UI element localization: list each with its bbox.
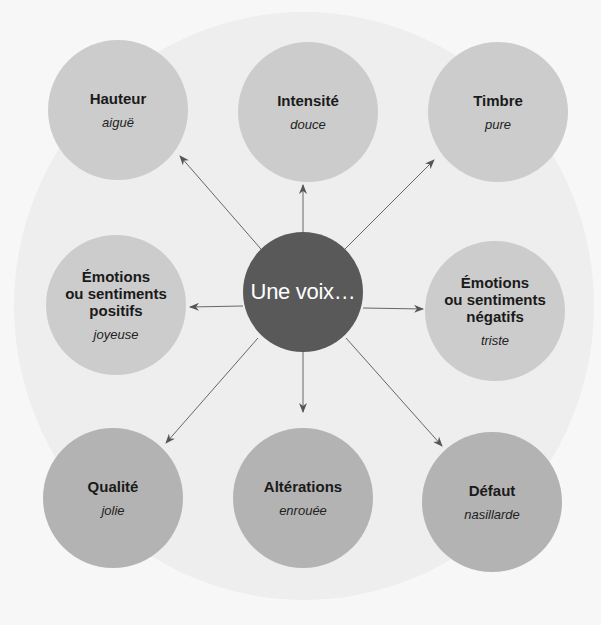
node-title: Timbre (473, 92, 523, 109)
center-label: Une voix… (251, 279, 356, 305)
node-hauteur: Hauteur aiguë (48, 40, 188, 180)
node-example: triste (481, 333, 509, 348)
node-title: Émotions ou sentiments négatifs (444, 274, 546, 325)
node-title: Intensité (277, 92, 339, 109)
node-title: Altérations (264, 478, 342, 495)
diagram-canvas: Une voix… Hauteur aiguë Intensité douce … (0, 0, 601, 625)
node-emotions-positifs: Émotions ou sentiments positifs joyeuse (46, 235, 186, 375)
node-example: joyeuse (94, 327, 139, 342)
arrow-emotions-positifs (190, 306, 243, 307)
node-qualite: Qualité jolie (43, 428, 183, 568)
node-example: pure (485, 117, 511, 132)
node-timbre: Timbre pure (428, 42, 568, 182)
node-title: Défaut (469, 482, 516, 499)
node-alterations: Altérations enrouée (233, 428, 373, 568)
node-example: aiguë (102, 115, 134, 130)
node-title: Qualité (88, 478, 139, 495)
arrow-qualite (166, 338, 258, 443)
arrow-emotions-negatifs (363, 308, 423, 309)
node-example: nasillarde (464, 507, 520, 522)
node-example: jolie (101, 503, 124, 518)
arrow-timbre (340, 160, 434, 254)
node-example: douce (290, 117, 325, 132)
center-node: Une voix… (243, 232, 363, 352)
node-title: Émotions ou sentiments positifs (65, 268, 167, 319)
arrow-defaut (346, 338, 442, 446)
arrow-hauteur (180, 156, 267, 256)
node-defaut: Défaut nasillarde (422, 432, 562, 572)
node-intensite: Intensité douce (238, 42, 378, 182)
node-example: enrouée (279, 503, 327, 518)
node-emotions-negatifs: Émotions ou sentiments négatifs triste (425, 241, 565, 381)
node-title: Hauteur (90, 90, 147, 107)
